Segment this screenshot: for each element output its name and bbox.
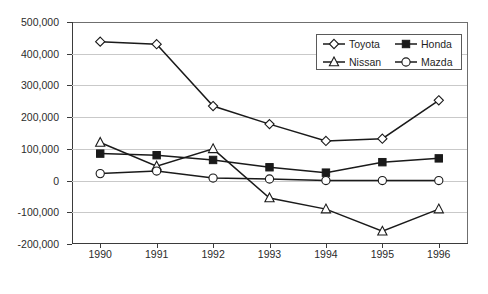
chart-legend: ToyotaHondaNissanMazda	[316, 34, 462, 70]
data-point-marker	[435, 176, 443, 184]
y-tickmark	[67, 244, 72, 245]
data-point-marker	[96, 37, 105, 46]
y-tick-label: 500,000	[21, 16, 59, 28]
y-tick-label: 100,000	[21, 143, 59, 155]
y-tick-label: -100,000	[18, 206, 59, 218]
series-line	[100, 143, 439, 232]
y-tick-label: -200,000	[18, 238, 59, 250]
data-point-marker	[435, 155, 442, 162]
data-point-marker	[265, 175, 273, 183]
data-point-marker	[379, 158, 386, 165]
y-tick-label: 200,000	[21, 111, 59, 123]
legend-label: Honda	[421, 39, 452, 50]
line-chart: 500,000400,000300,000200,000100,0000-100…	[0, 0, 488, 294]
data-point-marker	[96, 169, 104, 177]
circle-open-icon	[394, 56, 418, 68]
data-point-marker	[434, 204, 443, 213]
data-point-marker	[434, 96, 443, 105]
data-point-marker	[266, 164, 273, 171]
plot-border-right	[467, 22, 468, 244]
data-point-marker	[153, 167, 161, 175]
x-tick-label: 1994	[314, 248, 337, 260]
data-point-marker	[96, 138, 105, 147]
data-point-marker	[321, 136, 330, 145]
legend-item-mazda[interactable]: Mazda	[389, 56, 463, 68]
legend-item-nissan[interactable]: Nissan	[317, 56, 389, 68]
x-tick-label: 1990	[89, 248, 112, 260]
x-tick-label: 1991	[145, 248, 168, 260]
data-point-marker	[378, 176, 386, 184]
legend-item-honda[interactable]: Honda	[389, 38, 463, 50]
triangle-open-icon	[322, 56, 346, 68]
data-point-marker	[378, 134, 387, 143]
legend-label: Toyota	[349, 39, 380, 50]
data-point-marker	[209, 156, 216, 163]
x-tick-label: 1996	[427, 248, 450, 260]
y-tick-label: 300,000	[21, 79, 59, 91]
data-point-marker	[153, 152, 160, 159]
data-point-marker	[265, 120, 274, 129]
legend-item-toyota[interactable]: Toyota	[317, 38, 389, 50]
data-point-marker	[208, 144, 217, 153]
data-point-marker	[322, 169, 329, 176]
x-axis-tick-labels: 1990199119921993199419951996	[72, 248, 467, 268]
legend-label: Nissan	[349, 57, 381, 68]
data-point-marker	[97, 150, 104, 157]
x-tick-label: 1995	[371, 248, 394, 260]
legend-label: Mazda	[421, 57, 453, 68]
data-point-marker	[209, 174, 217, 182]
y-tick-label: 400,000	[21, 48, 59, 60]
data-point-marker	[322, 176, 330, 184]
diamond-open-icon	[322, 38, 346, 50]
y-tick-label: 0	[53, 175, 59, 187]
square-filled-icon	[394, 38, 418, 50]
y-axis-tick-labels: 500,000400,000300,000200,000100,0000-100…	[0, 22, 67, 244]
series-nissan	[96, 138, 444, 236]
x-tick-label: 1993	[258, 248, 281, 260]
x-tick-label: 1992	[201, 248, 224, 260]
